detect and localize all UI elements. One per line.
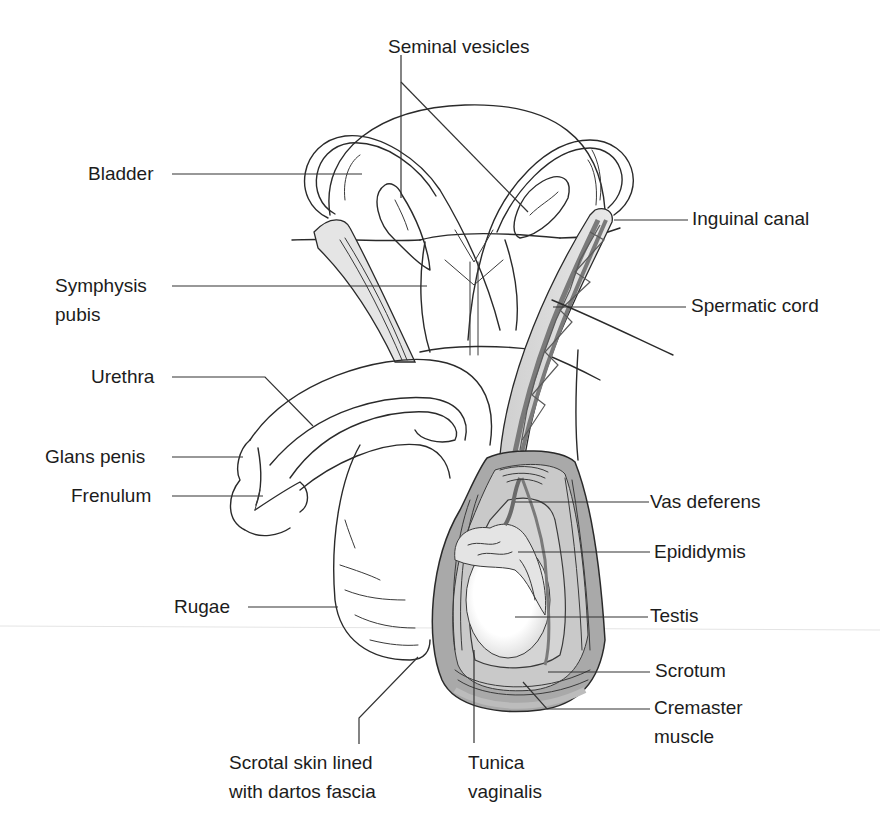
label-seminal-vesicles: Seminal vesicles <box>388 35 530 58</box>
penis-shape <box>230 359 491 535</box>
label-symphysis-pubis-line2: pubis <box>55 303 100 326</box>
label-vas-deferens: Vas deferens <box>650 490 761 513</box>
label-tunica-vaginalis-line2: vaginalis <box>468 780 542 803</box>
label-rugae: Rugae <box>174 595 230 618</box>
label-scrotum: Scrotum <box>655 659 726 682</box>
spermatic-cord-shape <box>500 209 612 455</box>
label-testis: Testis <box>650 604 699 627</box>
anatomy-illustration <box>0 0 880 823</box>
seminal-vesicles-shape <box>377 177 569 270</box>
label-cremaster-line2: muscle <box>654 725 714 748</box>
label-frenulum: Frenulum <box>71 484 151 507</box>
label-urethra: Urethra <box>91 365 154 388</box>
label-inguinal-canal: Inguinal canal <box>692 207 809 230</box>
label-scrotal-skin-line1: Scrotal skin lined <box>229 751 373 774</box>
label-epididymis: Epididymis <box>654 540 746 563</box>
symphysis-pubis-shape <box>314 220 415 362</box>
anatomy-diagram: Seminal vesicles Bladder Inguinal canal … <box>0 0 880 823</box>
label-glans-penis: Glans penis <box>45 445 145 468</box>
label-spermatic-cord: Spermatic cord <box>691 294 819 317</box>
label-tunica-vaginalis-line1: Tunica <box>468 751 524 774</box>
label-scrotal-skin-line2: with dartos fascia <box>229 780 376 803</box>
label-bladder: Bladder <box>88 162 154 185</box>
label-cremaster-line1: Cremaster <box>654 696 743 719</box>
bladder-shape <box>305 105 634 340</box>
label-symphysis-pubis-line1: Symphysis <box>55 274 147 297</box>
